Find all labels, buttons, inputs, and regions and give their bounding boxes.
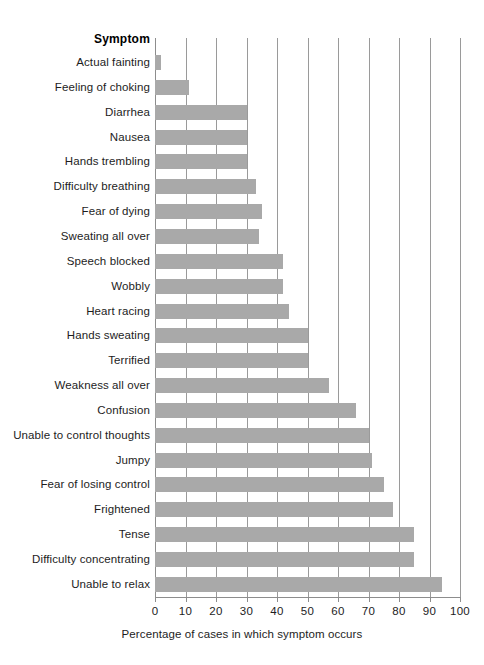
x-axis-tick-label: 100 — [440, 605, 480, 617]
bar-row — [155, 453, 460, 468]
bar — [155, 80, 189, 95]
bar-row — [155, 130, 460, 145]
category-label: Terrified — [2, 354, 150, 367]
bar — [155, 229, 259, 244]
bar — [155, 179, 256, 194]
bar — [155, 552, 414, 567]
bar-row — [155, 105, 460, 120]
bar-row — [155, 204, 460, 219]
x-axis-tick-90 — [430, 597, 431, 602]
bar — [155, 353, 308, 368]
bar — [155, 403, 356, 418]
category-label: Weakness all over — [2, 379, 150, 392]
category-label: Hands trembling — [2, 155, 150, 168]
x-axis-tick-10 — [186, 597, 187, 602]
bar-row — [155, 279, 460, 294]
category-label-column: Symptom Actual faintingFeeling of chokin… — [0, 0, 150, 665]
bar-row — [155, 477, 460, 492]
bar — [155, 378, 329, 393]
bar-row — [155, 527, 460, 542]
category-label: Tense — [2, 528, 150, 541]
bar — [155, 577, 442, 592]
bar-row — [155, 502, 460, 517]
gridline-100 — [460, 38, 461, 597]
bar-row — [155, 179, 460, 194]
bar-row — [155, 328, 460, 343]
bar — [155, 204, 262, 219]
bar — [155, 502, 393, 517]
bar — [155, 304, 289, 319]
bar-row — [155, 304, 460, 319]
plot-area — [155, 38, 460, 597]
bar-row — [155, 378, 460, 393]
bar-row — [155, 229, 460, 244]
bar-row — [155, 80, 460, 95]
category-label: Unable to relax — [2, 578, 150, 591]
bar-row — [155, 552, 460, 567]
bar-row — [155, 353, 460, 368]
symptom-frequency-bar-chart: Symptom Actual faintingFeeling of chokin… — [0, 0, 484, 665]
x-axis-title: Percentage of cases in which symptom occ… — [0, 628, 484, 640]
category-label: Unable to control thoughts — [2, 429, 150, 442]
bar-row — [155, 254, 460, 269]
bar-row — [155, 403, 460, 418]
x-axis-tick-50 — [308, 597, 309, 602]
category-label: Nausea — [2, 131, 150, 144]
bar — [155, 279, 283, 294]
category-label: Difficulty concentrating — [2, 553, 150, 566]
bar — [155, 428, 369, 443]
bar — [155, 130, 247, 145]
category-label: Heart racing — [2, 305, 150, 318]
bar — [155, 328, 308, 343]
bar — [155, 105, 247, 120]
category-label: Diarrhea — [2, 106, 150, 119]
x-axis-tick-0 — [155, 597, 156, 602]
category-label: Actual fainting — [2, 56, 150, 69]
bar-row — [155, 577, 460, 592]
category-label: Jumpy — [2, 454, 150, 467]
x-axis-tick-100 — [460, 597, 461, 602]
category-label: Confusion — [2, 404, 150, 417]
category-label: Fear of losing control — [2, 478, 150, 491]
x-axis-tick-80 — [399, 597, 400, 602]
category-label: Frightened — [2, 503, 150, 516]
category-label: Sweating all over — [2, 230, 150, 243]
category-label: Difficulty breathing — [2, 180, 150, 193]
bar — [155, 154, 247, 169]
bar — [155, 477, 384, 492]
x-axis-tick-20 — [216, 597, 217, 602]
bar — [155, 453, 372, 468]
category-label: Feeling of choking — [2, 81, 150, 94]
bar-row — [155, 154, 460, 169]
x-axis-tick-40 — [277, 597, 278, 602]
bar-row — [155, 55, 460, 70]
column-header-symptom: Symptom — [2, 32, 150, 46]
category-label: Speech blocked — [2, 255, 150, 268]
x-axis-tick-30 — [247, 597, 248, 602]
bar — [155, 254, 283, 269]
x-axis-tick-70 — [369, 597, 370, 602]
x-axis-tick-60 — [338, 597, 339, 602]
bar-row — [155, 428, 460, 443]
category-label: Fear of dying — [2, 205, 150, 218]
category-label: Hands sweating — [2, 329, 150, 342]
category-label: Wobbly — [2, 280, 150, 293]
bar — [155, 527, 414, 542]
bar — [155, 55, 161, 70]
